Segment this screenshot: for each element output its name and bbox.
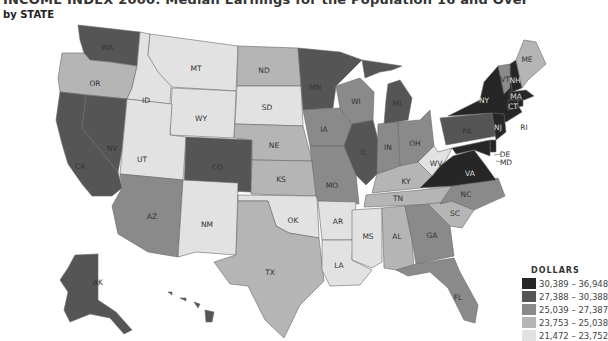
state-ak <box>60 254 132 334</box>
state-label-ky: KY <box>401 177 411 186</box>
state-label-sc: SC <box>450 209 460 218</box>
state-label-me: ME <box>521 55 532 64</box>
state-nm <box>178 180 238 257</box>
state-wy <box>170 88 236 138</box>
state-label-al: AL <box>392 232 402 241</box>
legend-label: 30,389 – 36,948 <box>539 279 608 289</box>
legend-item: 21,472 – 23,752 <box>522 330 608 341</box>
state-label-nc: NC <box>461 190 472 199</box>
state-ri <box>518 100 523 107</box>
state-label-ri: RI <box>520 123 527 132</box>
state-label-ok: OK <box>288 216 300 225</box>
legend-item: 30,389 – 36,948 <box>522 278 608 289</box>
state-label-ar: AR <box>333 217 343 226</box>
legend-label: 23,753 – 25,038 <box>539 318 608 328</box>
state-label-mo: MO <box>326 181 338 190</box>
legend-label: 21,472 – 23,752 <box>539 331 608 341</box>
state-label-fl: FL <box>454 293 463 302</box>
legend-swatch <box>522 304 536 315</box>
legend-title: DOLLARS <box>531 266 580 275</box>
state-label-ne: NE <box>269 141 280 150</box>
state-label-nh: NH <box>509 76 520 85</box>
state-label-il: IL <box>361 148 368 157</box>
state-label-in: IN <box>384 143 392 152</box>
state-label-nv: NV <box>107 144 119 153</box>
state-fl <box>396 258 478 323</box>
state-label-la: LA <box>334 261 344 270</box>
state-label-mn: MN <box>309 83 321 92</box>
state-label-tn: TN <box>392 194 403 203</box>
state-label-ny: NY <box>479 96 490 105</box>
state-label-pa: PA <box>462 127 472 136</box>
state-label-ks: KS <box>276 175 286 184</box>
state-label-ia: IA <box>320 125 328 134</box>
state-hi <box>168 292 214 322</box>
legend-swatch <box>522 278 536 289</box>
state-label-md: MD <box>500 158 512 167</box>
legend-item: 25,039 – 27,387 <box>522 304 608 315</box>
state-label-nj: NJ <box>494 123 502 132</box>
state-label-oh: OH <box>409 139 421 148</box>
legend-swatch <box>522 291 536 302</box>
state-de <box>490 140 496 152</box>
state-label-ut: UT <box>137 155 147 164</box>
state-label-or: OR <box>89 79 100 88</box>
state-label-va: VA <box>465 169 476 178</box>
state-label-mi: MI <box>393 99 402 108</box>
state-label-ms: MS <box>362 232 373 241</box>
state-label-az: AZ <box>147 212 157 221</box>
legend-swatch <box>522 330 536 341</box>
legend-label: 27,388 – 30,388 <box>539 292 608 302</box>
state-label-ga: GA <box>427 231 439 240</box>
legend-swatch <box>522 317 536 328</box>
state-label-sd: SD <box>262 103 273 112</box>
state-label-wv: WV <box>430 159 443 168</box>
state-label-mt: MT <box>190 64 201 73</box>
state-label-ca: CA <box>75 162 86 171</box>
legend-label: 25,039 – 27,387 <box>539 305 608 315</box>
state-label-nd: ND <box>258 66 270 75</box>
legend-item: 27,388 – 30,388 <box>522 291 608 302</box>
state-label-co: CO <box>211 163 222 172</box>
state-label-ak: AK <box>93 278 104 287</box>
state-label-ma: MA <box>510 92 522 101</box>
state-label-wi: WI <box>351 97 361 106</box>
state-label-wy: WY <box>195 114 207 123</box>
state-label-id: ID <box>142 96 150 105</box>
state-label-tx: TX <box>264 268 275 277</box>
state-label-ct: CT <box>508 102 518 111</box>
state-label-wa: WA <box>101 43 114 52</box>
state-label-nm: NM <box>201 220 213 229</box>
legend-item: 23,753 – 25,038 <box>522 317 608 328</box>
